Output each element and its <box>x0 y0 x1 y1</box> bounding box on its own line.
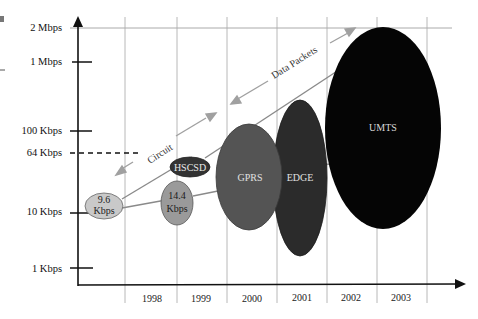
y-label-2mbps: 2 Mbps <box>30 22 62 33</box>
bubble-gprs: GPRS <box>216 124 282 230</box>
bubble-9-6-kbps: 9.6 Kbps <box>85 193 123 219</box>
bubble-edge-label: EDGE <box>287 172 314 183</box>
y-axis-labels: 2 Mbps 1 Mbps 100 Kbps 64 Kbps 10 Kbps 1… <box>21 22 62 274</box>
bubble-gprs-label: GPRS <box>237 172 262 183</box>
bubble-14-4-line1: 14.4 <box>168 190 186 201</box>
corner-mark <box>0 16 4 22</box>
bubble-9-6-line1: 9.6 <box>98 194 111 205</box>
year-2002: 2002 <box>341 292 361 303</box>
y-label-100kbps: 100 Kbps <box>21 125 62 136</box>
y-axis-arrowhead <box>73 16 83 27</box>
x-axis-arrowhead <box>455 279 466 289</box>
y-label-1kbps: 1 Kbps <box>32 263 62 274</box>
year-2003: 2003 <box>391 292 411 303</box>
circuit-label: Circuit <box>145 141 174 165</box>
y-label-64kbps: 64 Kbps <box>27 147 62 158</box>
y-label-10kbps: 10 Kbps <box>27 206 62 217</box>
mobile-data-evolution-diagram: Circuit Data Packets 2 Mbps 1 Mbps 100 K… <box>0 0 478 319</box>
bubble-umts-label: UMTS <box>369 122 397 133</box>
bubble-9-6-line2: Kbps <box>93 205 114 216</box>
year-1999: 1999 <box>191 293 211 304</box>
year-2001: 2001 <box>292 292 312 303</box>
year-2000: 2000 <box>242 293 262 304</box>
x-axis <box>78 284 458 285</box>
bubble-hscsd: HSCSD <box>170 157 210 177</box>
y-ticks <box>70 62 93 268</box>
bubble-umts: UMTS <box>325 27 441 229</box>
bubble-hscsd-label: HSCSD <box>174 162 206 173</box>
bubble-14-4-line2: Kbps <box>166 203 187 214</box>
y-label-1mbps: 1 Mbps <box>30 56 62 67</box>
year-1998: 1998 <box>142 293 162 304</box>
bubble-14-4-kbps: 14.4 Kbps <box>161 181 193 225</box>
